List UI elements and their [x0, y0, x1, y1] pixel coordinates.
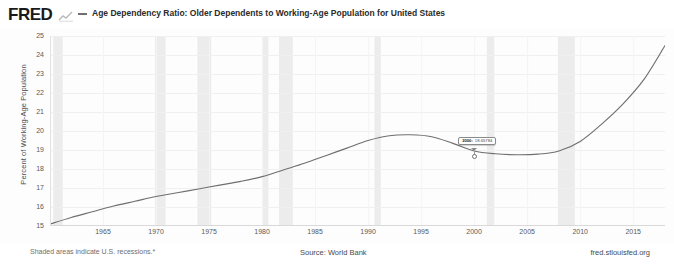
x-axis-tick: 1965	[86, 228, 120, 235]
chart-header: FRED Age Dependency Ratio: Older Depende…	[0, 0, 674, 28]
tooltip-value: 18.65784	[475, 138, 492, 143]
x-axis-tick: 2005	[510, 228, 544, 235]
x-axis-tick: 1995	[404, 228, 438, 235]
chart-title: Age Dependency Ratio: Older Dependents t…	[92, 8, 445, 18]
y-axis-tick: 25	[24, 32, 44, 39]
y-axis-tick: 18	[24, 165, 44, 172]
fred-chart-figure: FRED Age Dependency Ratio: Older Depende…	[0, 0, 674, 273]
x-axis-tick: 1975	[192, 228, 226, 235]
chart-footer: Shaded areas indicate U.S. recessions.* …	[0, 244, 674, 273]
y-axis-tick: 21	[24, 108, 44, 115]
y-axis-tick: 22	[24, 89, 44, 96]
y-axis-tick: 19	[24, 146, 44, 153]
fred-logo: FRED	[8, 5, 52, 25]
data-point-tooltip: 2000:18.65784	[458, 137, 496, 146]
legend-line-swatch	[78, 13, 87, 15]
tooltip-date: 2000:	[462, 138, 473, 143]
y-axis-tick: 23	[24, 70, 44, 77]
y-axis-tick: 17	[24, 184, 44, 191]
recession-note: Shaded areas indicate U.S. recessions.*	[30, 248, 155, 255]
x-axis-tick: 2015	[616, 228, 650, 235]
y-axis-tick: 15	[24, 222, 44, 229]
y-axis-tick: 24	[24, 51, 44, 58]
tooltip-data-point[interactable]	[472, 154, 477, 159]
x-axis-tick: 2000	[457, 228, 491, 235]
x-axis-tick: 1985	[298, 228, 332, 235]
y-axis-tick: 16	[24, 203, 44, 210]
plot-area[interactable]	[50, 36, 665, 226]
x-axis-tick: 2010	[563, 228, 597, 235]
tooltip-arrow-icon	[471, 148, 477, 151]
fred-url[interactable]: fred.stlouisfed.org	[590, 248, 650, 257]
x-axis-tick: 1980	[245, 228, 279, 235]
y-axis-tick: 20	[24, 127, 44, 134]
x-axis-tick: 1970	[139, 228, 173, 235]
source-note: Source: World Bank	[300, 248, 367, 257]
x-axis-tick: 1990	[351, 228, 385, 235]
mini-line-chart-icon	[58, 10, 74, 22]
